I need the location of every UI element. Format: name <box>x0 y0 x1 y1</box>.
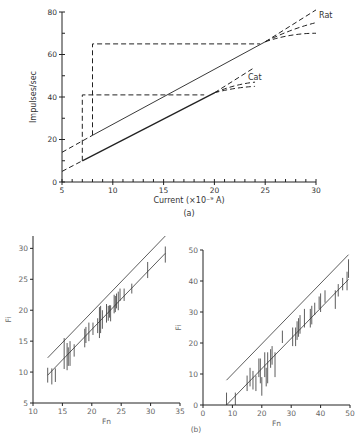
series-rat <box>62 10 316 152</box>
chart-a: 02040608051015202530RatCatCurrent (×10⁻⁹… <box>29 8 332 219</box>
x-axis-label: Fn <box>272 419 281 428</box>
svg-text:20: 20 <box>18 306 28 315</box>
svg-text:25: 25 <box>116 407 126 416</box>
svg-text:20: 20 <box>47 135 57 144</box>
svg-text:20: 20 <box>188 339 198 348</box>
svg-text:10: 10 <box>108 186 118 195</box>
svg-text:5: 5 <box>60 186 65 195</box>
figure: 02040608051015202530RatCatCurrent (×10⁻⁹… <box>0 0 363 438</box>
svg-text:30: 30 <box>146 407 156 416</box>
svg-text:15: 15 <box>18 337 28 346</box>
x-axis-label: Current (×10⁻⁹ A) <box>153 196 224 205</box>
rat-label: Rat <box>319 11 332 20</box>
svg-text:60: 60 <box>47 50 57 59</box>
svg-text:40: 40 <box>316 409 326 418</box>
svg-text:25: 25 <box>260 186 270 195</box>
svg-text:50: 50 <box>345 409 355 418</box>
svg-text:30: 30 <box>188 308 198 317</box>
svg-text:15: 15 <box>159 186 169 195</box>
y-axis-label: Impulses/sec <box>29 71 38 123</box>
svg-text:30: 30 <box>311 186 321 195</box>
y-axis-label: Fi <box>4 317 13 323</box>
svg-text:40: 40 <box>47 93 57 102</box>
chart-b-right: 0102030405001020304050FnFi <box>174 246 355 429</box>
svg-text:10: 10 <box>188 370 198 379</box>
cat-label: Cat <box>248 73 262 82</box>
svg-text:35: 35 <box>175 407 185 416</box>
series-cat <box>62 67 255 171</box>
svg-text:10: 10 <box>28 407 38 416</box>
svg-text:30: 30 <box>18 244 28 253</box>
svg-text:25: 25 <box>18 275 28 284</box>
svg-text:15: 15 <box>58 407 68 416</box>
y-axis-label: Fi <box>174 325 183 331</box>
svg-text:0: 0 <box>52 178 57 187</box>
svg-text:50: 50 <box>188 246 198 255</box>
svg-text:10: 10 <box>228 409 238 418</box>
svg-text:20: 20 <box>210 186 220 195</box>
svg-text:10: 10 <box>18 368 28 377</box>
svg-text:0: 0 <box>193 401 198 410</box>
svg-text:20: 20 <box>87 407 97 416</box>
chart-b-left: 51015202530101520253035FnFi <box>4 236 185 426</box>
svg-text:40: 40 <box>188 277 198 286</box>
panel-a-label: (a) <box>183 209 194 218</box>
svg-text:30: 30 <box>286 409 296 418</box>
svg-text:80: 80 <box>47 8 57 17</box>
panel-b-label: (b) <box>191 425 202 434</box>
x-axis-label: Fn <box>102 417 111 426</box>
svg-text:20: 20 <box>257 409 267 418</box>
svg-text:0: 0 <box>201 409 206 418</box>
